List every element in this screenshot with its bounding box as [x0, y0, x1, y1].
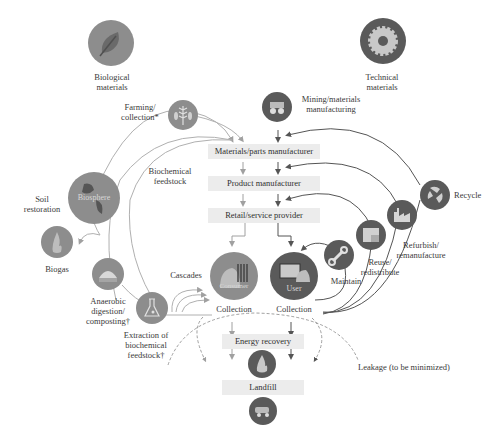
soil-restoration-label: Soilrestoration [22, 194, 62, 214]
consumer-icon: Consumer [210, 252, 258, 300]
consumer-label: Consumer [210, 282, 258, 290]
retail-service-provider-box: Retail/service provider [208, 208, 320, 223]
extraction-label: Extraction ofbiochemicalfeedstock† [114, 330, 178, 360]
anaerobic-digestion-label: Anaerobicdigestion/composting† [78, 296, 138, 326]
cascades-label: Cascades [166, 270, 206, 280]
flame-icon [41, 226, 73, 258]
biogas-label: Biogas [37, 264, 77, 274]
flask-icon [136, 292, 168, 324]
circular-economy-diagram: Biologicalmaterials Technicalmaterials F… [0, 0, 499, 437]
leaf-icon [88, 20, 134, 66]
user-label: User [270, 284, 318, 293]
reuse-label: Reuse/redistribute [354, 257, 406, 277]
mining-truck-icon [262, 92, 292, 122]
greenhouse-icon [92, 258, 124, 290]
user-collection-label: Collection [268, 304, 320, 314]
biological-materials-title: Biologicalmaterials [82, 72, 142, 92]
recycle-label: Recycle [454, 190, 481, 200]
consumer-collection-label: Collection [208, 304, 260, 314]
fire-icon [248, 350, 276, 378]
biosphere-label: Biosphere [68, 193, 120, 202]
dump-truck-icon [249, 397, 277, 425]
biochemical-feedstock-label: Biochemicalfeedstock [140, 166, 200, 186]
materials-parts-manufacturer-box: Materials/parts manufacturer [208, 144, 320, 159]
energy-recovery-box: Energy recovery [222, 334, 304, 349]
landfill-box: Landfill [222, 380, 304, 395]
farming-label: Farming/collection* [112, 102, 168, 122]
wheat-icon [168, 100, 198, 130]
computer-icon: User [270, 252, 318, 300]
globe-icon: Biosphere [68, 172, 120, 224]
technical-materials-title: Technicalmaterials [352, 72, 412, 92]
gear-icon [360, 18, 406, 64]
factory-icon [387, 200, 417, 230]
product-manufacturer-box: Product manufacturer [208, 176, 320, 191]
mining-label: Mining/materialsmanufacturing [296, 94, 366, 114]
recycle-icon [420, 180, 450, 210]
maintain-label: Maintain [324, 276, 368, 286]
refurbish-label: Refurbish/remanufacture [388, 240, 454, 260]
boxes-icon [356, 220, 386, 250]
wrench-icon [324, 240, 354, 270]
leakage-label: Leakage (to be minimized) [358, 362, 450, 372]
